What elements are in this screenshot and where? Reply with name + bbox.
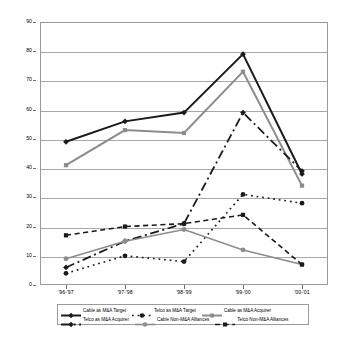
data-point-marker <box>300 184 304 188</box>
x-tick-mark <box>125 285 126 289</box>
data-point-marker <box>182 227 187 232</box>
legend-item[interactable]: Cable as M&A Acquirer <box>201 306 271 315</box>
y-tick-label: 80 <box>26 49 32 54</box>
legend-swatch <box>201 306 223 315</box>
legend-swatch <box>214 315 236 324</box>
legend-label: Cable as M&A Acquirer <box>223 308 271 314</box>
data-point-marker <box>123 253 128 258</box>
legend-item[interactable]: Telco as M&A Target <box>131 306 196 315</box>
x-tick-mark <box>243 285 244 289</box>
x-tick-label: '97-'98 <box>117 289 132 295</box>
data-point-marker <box>182 131 186 135</box>
data-point-marker <box>123 128 127 132</box>
legend-label: Telco as M&A Acquirer <box>82 317 129 323</box>
data-point-marker <box>64 233 68 237</box>
y-tick-label: 30 <box>26 195 32 200</box>
series-line <box>66 113 302 268</box>
data-point-marker <box>63 265 69 271</box>
series-layer <box>40 22 328 285</box>
data-point-marker <box>182 222 186 226</box>
data-point-marker <box>223 323 227 327</box>
data-point-marker <box>241 248 246 253</box>
data-point-marker <box>182 259 187 264</box>
y-tick-mark <box>33 227 36 228</box>
legend-swatch <box>60 306 82 315</box>
data-point-marker <box>241 213 245 217</box>
y-tick-mark <box>33 168 36 169</box>
data-point-marker <box>68 322 74 328</box>
y-tick-label: 40 <box>26 166 32 171</box>
legend-item[interactable]: Telco as M&A Acquirer <box>60 315 129 324</box>
data-point-marker <box>300 262 304 266</box>
x-tick-mark <box>302 285 303 289</box>
data-point-marker <box>64 271 69 276</box>
y-tick-mark <box>33 51 36 52</box>
y-tick-label: 50 <box>26 136 32 141</box>
series-telco-as-manda-target <box>64 192 305 276</box>
legend-label: Cable as M&A Target <box>82 308 126 314</box>
data-point-marker <box>122 118 128 124</box>
legend-swatch <box>134 315 156 324</box>
data-point-marker <box>123 239 128 244</box>
legend-swatch <box>131 306 153 315</box>
legend-label: Telco Non-M&A Alliances <box>236 317 288 323</box>
y-tick-label: 70 <box>26 78 32 83</box>
y-tick-mark <box>33 80 36 81</box>
y-tick-label: 0 <box>29 282 32 287</box>
legend-swatch <box>60 315 82 324</box>
y-tick-label: 20 <box>26 224 32 229</box>
data-point-marker <box>210 314 214 318</box>
data-point-marker <box>241 192 246 197</box>
data-point-marker <box>300 201 305 206</box>
legend-label: Telco as M&A Target <box>153 308 196 314</box>
legend-row: Telco as M&A AcquirerCable Non-M&A Allia… <box>60 315 306 324</box>
x-tick-mark <box>66 285 67 289</box>
y-tick-label: 90 <box>26 19 32 24</box>
data-point-marker <box>123 224 127 228</box>
y-tick-label: 60 <box>26 107 32 112</box>
data-point-marker <box>63 139 69 145</box>
y-tick-mark <box>33 110 36 111</box>
legend-row: Cable as M&A TargetTelco as M&A TargetCa… <box>60 306 306 315</box>
y-tick-mark <box>33 139 36 140</box>
legend-item[interactable]: Cable as M&A Target <box>60 306 126 315</box>
chart-container: 0102030405060708090 '96-'97'97-'98'98-'9… <box>0 0 358 344</box>
y-tick-mark <box>33 256 36 257</box>
y-axis: 0102030405060708090 <box>0 22 36 285</box>
y-tick-mark <box>33 285 36 286</box>
data-point-marker <box>143 322 148 327</box>
data-point-marker <box>241 70 245 74</box>
x-tick-label: '00-'01 <box>294 289 309 295</box>
y-tick-mark <box>33 22 36 23</box>
x-tick-label: '96-'97 <box>58 289 73 295</box>
chart-legend: Cable as M&A TargetTelco as M&A TargetCa… <box>57 304 309 325</box>
legend-item[interactable]: Telco Non-M&A Alliances <box>214 315 288 324</box>
x-tick-label: '99-'00 <box>235 289 250 295</box>
y-tick-mark <box>33 197 36 198</box>
y-tick-label: 10 <box>26 253 32 258</box>
data-point-marker <box>64 256 69 261</box>
data-point-marker <box>64 163 68 167</box>
x-tick-mark <box>184 285 185 289</box>
legend-item[interactable]: Cable Non-M&A Alliances <box>134 315 209 324</box>
series-cable-as-manda-acquirer <box>64 70 304 188</box>
x-tick-label: '98-'99 <box>176 289 191 295</box>
series-cable-as-manda-target <box>63 51 305 177</box>
x-axis: '96-'97'97-'98'98-'99'99-'00'00-'01 <box>40 289 328 301</box>
